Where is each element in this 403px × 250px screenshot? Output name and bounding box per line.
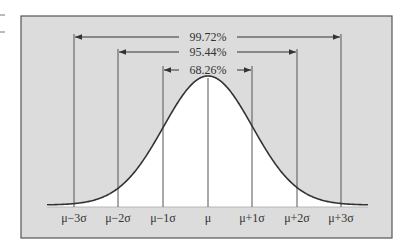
interval-label-99: 99.72% <box>190 30 227 44</box>
normal-distribution-diagram: 99.72% 95.44% 68.26% μ−3σ μ−2σ μ−1σ μ μ+… <box>0 0 403 250</box>
axis-label-mu-minus-2sigma: μ−2σ <box>105 211 131 225</box>
axis-label-mu-minus-1sigma: μ−1σ <box>150 211 176 225</box>
axis-label-mu-plus-1sigma: μ+1σ <box>239 211 265 225</box>
axis-label-mu-plus-2sigma: μ+2σ <box>284 211 310 225</box>
axis-label-mu: μ <box>205 211 211 225</box>
axis-label-mu-minus-3sigma: μ−3σ <box>61 211 87 225</box>
interval-label-68: 68.26% <box>190 63 227 77</box>
axis-label-mu-plus-3sigma: μ+3σ <box>328 211 354 225</box>
interval-label-95: 95.44% <box>190 45 227 59</box>
